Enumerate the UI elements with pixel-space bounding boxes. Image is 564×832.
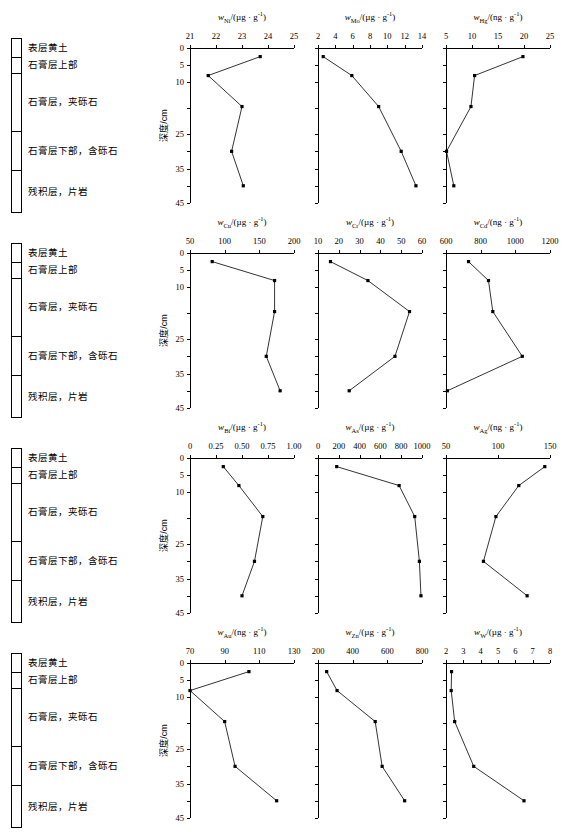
strat-unit-label: 表层黄土 <box>28 247 68 258</box>
chart-panel-ni: wNi/(µg · g-1)21222324250510253545深度/cm <box>190 10 314 223</box>
strat-divider <box>11 262 22 263</box>
depth-tick-label: 5 <box>164 265 184 275</box>
series-line <box>212 262 280 391</box>
x-tick-label: 10 <box>468 31 477 41</box>
x-tick-label: 400 <box>346 646 359 656</box>
chart-title-cu: wCu/(µg · g-1) <box>190 215 294 229</box>
data-point <box>398 484 401 487</box>
x-tick-label: 0.25 <box>209 441 224 451</box>
series-line <box>447 57 523 186</box>
data-point <box>211 260 214 263</box>
strat-divider <box>11 170 22 171</box>
strat-unit-label: 表层黄土 <box>28 42 68 53</box>
data-point <box>253 560 256 563</box>
strat-unit-label: 石膏层，夹砾石 <box>28 301 98 312</box>
depth-tick-label: 5 <box>164 675 184 685</box>
chart-panel-ag: wAg/(ng · g-1)50100150 <box>446 420 564 633</box>
x-tick-label: 110 <box>253 646 265 656</box>
depth-axis-title: 深度/cm <box>157 705 170 775</box>
data-point <box>452 184 455 187</box>
data-point <box>473 74 476 77</box>
series-line <box>483 467 544 596</box>
x-tick-label: 6 <box>513 646 517 656</box>
depth-tick-label: 35 <box>164 369 184 379</box>
strat-unit-label: 石膏层，夹砾石 <box>28 506 98 517</box>
data-point <box>408 310 411 313</box>
x-tick-label: 8 <box>368 31 372 41</box>
depth-axis-title: 深度/cm <box>157 295 170 365</box>
depth-tick-label: 10 <box>164 692 184 702</box>
depth-tick-label: 10 <box>164 487 184 497</box>
x-tick-label: 800 <box>395 441 408 451</box>
depth-tick-label: 45 <box>164 198 184 208</box>
x-tick-label: 50 <box>186 236 195 246</box>
series-line <box>190 672 277 801</box>
chart-panel-cr: wCr/(µg · g-1)102030405060 <box>318 215 442 428</box>
strat-column-box <box>11 243 22 418</box>
x-tick-label: 3 <box>461 646 465 656</box>
data-point <box>445 150 448 153</box>
data-point <box>188 689 191 692</box>
strat-unit-label: 石膏层上部 <box>28 59 78 70</box>
data-point <box>348 389 351 392</box>
data-point <box>419 594 422 597</box>
x-tick-label: 70 <box>186 646 195 656</box>
chart-panel-zn: wZn/(µg · g-1)200400600800 <box>318 625 442 832</box>
x-tick-label: 200 <box>332 441 345 451</box>
data-point <box>329 260 332 263</box>
data-point <box>259 55 262 58</box>
x-tick-label: 1200 <box>542 236 559 246</box>
data-point <box>242 184 245 187</box>
strat-unit-label: 残积层，片岩 <box>28 801 88 812</box>
x-tick-label: 130 <box>288 646 301 656</box>
strat-unit-label: 石膏层下部，含砾石 <box>28 555 118 566</box>
data-point <box>335 689 338 692</box>
strat-unit-label: 石膏层上部 <box>28 674 78 685</box>
strat-divider <box>11 467 22 468</box>
chart-panel-w: wW/(µg · g-1)2345678 <box>446 625 564 832</box>
x-tick-label: 6 <box>351 31 355 41</box>
data-point <box>275 799 278 802</box>
chart-panel-bi: wBi/(µg · g-1)00.250.500.751.00051025354… <box>190 420 314 633</box>
data-point <box>522 799 525 802</box>
strat-divider <box>11 672 22 673</box>
x-tick-label: 7 <box>531 646 535 656</box>
depth-tick-label: 0 <box>164 248 184 258</box>
series-line <box>447 262 522 391</box>
depth-tick-label: 0 <box>164 658 184 668</box>
profile-row-3: 表层黄土石膏层上部石膏层，夹砾石石膏层下部，含砾石残积层，片岩wBi/(µg ·… <box>0 420 564 625</box>
x-tick-label: 15 <box>494 31 503 41</box>
data-point <box>526 594 529 597</box>
depth-axis-title: 深度/cm <box>157 90 170 160</box>
series-as <box>318 458 426 619</box>
x-tick-label: 0.50 <box>235 441 250 451</box>
data-point <box>240 594 243 597</box>
data-point <box>374 720 377 723</box>
data-point <box>273 310 276 313</box>
depth-tick-label: 35 <box>164 574 184 584</box>
x-tick-label: 5 <box>444 31 448 41</box>
strat-unit-label: 残积层，片岩 <box>28 596 88 607</box>
strat-unit-label: 石膏层下部，含砾石 <box>28 350 118 361</box>
depth-tick-label: 5 <box>164 60 184 70</box>
chart-panel-cd: wCd/(ng · g-1)60080010001200 <box>446 215 564 428</box>
data-point <box>467 260 470 263</box>
x-tick-label: 25 <box>290 31 299 41</box>
depth-tick-label: 45 <box>164 813 184 823</box>
profile-row-1: 表层黄土石膏层上部石膏层，夹砾石石膏层下部，含砾石残积层，片岩wNi/(µg ·… <box>0 10 564 215</box>
x-tick-label: 50 <box>397 236 406 246</box>
chart-panel-au: wAu/(ng · g-1)70901101300510253545深度/cm <box>190 625 314 832</box>
x-tick-label: 150 <box>544 441 557 451</box>
x-tick-label: 10 <box>314 236 323 246</box>
series-bi <box>190 458 298 619</box>
x-tick-label: 90 <box>220 646 229 656</box>
x-tick-label: 25 <box>546 31 555 41</box>
chart-panel-cu: wCu/(µg · g-1)501001502000510253545深度/cm <box>190 215 314 428</box>
chart-title-au: wAu/(ng · g-1) <box>190 625 294 639</box>
x-tick-label: 60 <box>418 236 427 246</box>
x-tick-label: 1000 <box>507 236 524 246</box>
chart-title-ni: wNi/(µg · g-1) <box>190 10 294 24</box>
strat-divider <box>11 580 22 581</box>
depth-tick-label: 45 <box>164 608 184 618</box>
